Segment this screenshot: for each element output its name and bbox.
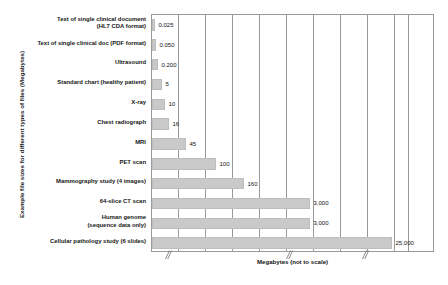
bar [152, 118, 169, 130]
category-label: 64-slice CT scan [18, 198, 146, 205]
bar [152, 178, 244, 190]
bar-value-label: 5 [166, 81, 169, 87]
bar-value-label: 3,000 [314, 220, 329, 226]
bars-layer: 0.0250.0500.20051016451001603,0003,00025… [152, 15, 433, 251]
category-label: Standard chart (healthy patient) [18, 79, 146, 86]
category-label: Text of single clinical doc (PDF format) [18, 40, 146, 47]
axis-break-icon [164, 246, 173, 256]
category-label: PET scan [18, 159, 146, 166]
bar [152, 59, 158, 71]
bar-value-label: 3,000 [314, 200, 329, 206]
bar [152, 19, 155, 31]
bar-value-label: 10 [169, 101, 176, 107]
category-label: Cellular pathology study (6 slides) [18, 238, 146, 245]
x-axis-title: Megabytes (not to scale) [151, 258, 434, 265]
bar-value-label: 160 [248, 181, 258, 187]
bar-value-label: 16 [173, 121, 180, 127]
chart-container: Example file sizes for different types o… [0, 0, 448, 285]
bar [152, 237, 392, 249]
category-label: Human genome (sequence data only) [18, 214, 146, 229]
category-label: Text of single clinical document (HL7 CD… [18, 16, 146, 31]
bar [152, 79, 162, 91]
axis-break-icon [285, 246, 294, 256]
plot-area: 0.0250.0500.20051016451001603,0003,00025… [151, 14, 434, 252]
bar-value-label: 45 [190, 141, 197, 147]
bar [152, 158, 216, 170]
bar [152, 99, 165, 111]
bar-value-label: 0.050 [160, 42, 175, 48]
category-label: MRI [18, 139, 146, 146]
bar-value-label: 100 [220, 161, 230, 167]
bar-value-label: 0.025 [159, 22, 174, 28]
bar [152, 198, 310, 210]
bar-value-label: 0.200 [162, 62, 177, 68]
category-label: Ultrasound [18, 59, 146, 66]
category-label: Mammography study (4 images) [18, 178, 146, 185]
axis-break-icon [361, 246, 370, 256]
bar [152, 218, 310, 230]
bar [152, 39, 156, 51]
category-label: Chest radiograph [18, 119, 146, 126]
bar [152, 138, 186, 150]
bar-value-label: 25,000 [396, 240, 414, 246]
category-label: X-ray [18, 99, 146, 106]
category-label-column: Text of single clinical document (HL7 CD… [18, 14, 146, 252]
